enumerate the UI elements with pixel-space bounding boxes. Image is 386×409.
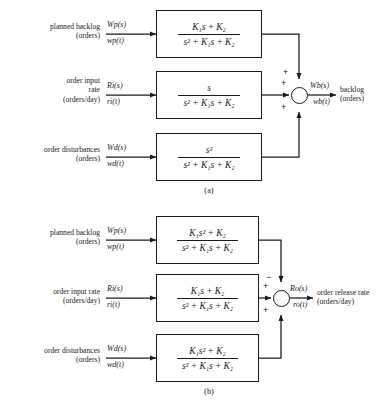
signal-time-wd-b: wd(t) [107, 360, 124, 369]
transfer-function-block-b1: K₁s² + K₂ s² + K₁s + K₂ [156, 216, 259, 264]
input-label-order-disturbances-a: order disturbances (orders) [2, 145, 100, 164]
transfer-function-block-a2: s s² + K₁s + K₂ [156, 71, 262, 119]
output-desc-line1: order release rate [317, 288, 386, 297]
numerator: s [178, 82, 239, 96]
output-desc-line1: backlog [340, 85, 386, 94]
input-label-order-disturbances-b: order disturbances (orders) [2, 346, 100, 365]
input-desc-line1: planned backlog [8, 22, 100, 31]
transfer-function-b1: K₁s² + K₂ s² + K₁s + K₂ [177, 227, 238, 254]
output-label-backlog-a: backlog (orders) [340, 85, 386, 104]
input-desc-line2: (orders) [2, 355, 100, 364]
output-label-order-release-rate-b: order release rate (orders/day) [317, 288, 386, 307]
numerator: s² [178, 144, 239, 158]
input-desc-line1: order disturbances [2, 145, 100, 154]
transfer-function-a1: K₁s + K₂ s² + K₁s + K₂ [178, 21, 239, 48]
denominator: s² + K₁s + K₂ [178, 158, 239, 171]
transfer-function-block-a3: s² s² + K₁s + K₂ [156, 133, 262, 181]
sign-left-b: + [263, 282, 268, 291]
transfer-function-block-b3: K₁s² + K₂ s² + K₁s + K₂ [156, 334, 259, 382]
summing-junction-a [291, 87, 308, 104]
input-label-order-input-rate-b: order input rate (orders/day) [4, 287, 100, 306]
input-desc-line2: rate [8, 85, 100, 94]
denominator: s² + K₁s + K₂ [177, 299, 238, 312]
input-desc-line2: (orders) [8, 31, 100, 40]
input-desc-line1: order input [8, 76, 100, 85]
signal-laplace-wp-a: Wp(s) [107, 20, 126, 29]
output-time-wb-a: wb(t) [313, 97, 330, 106]
signal-time-wp-b: wp(t) [107, 242, 124, 251]
input-desc-line2: (orders/day) [4, 296, 100, 305]
caption-b: (b) [189, 387, 229, 396]
figure-canvas: planned backlog (orders) Wp(s) wp(t) ord… [0, 0, 386, 409]
denominator: s² + K₁s + K₂ [178, 35, 239, 48]
summing-junction-b [273, 290, 290, 307]
transfer-function-a3: s² s² + K₁s + K₂ [178, 144, 239, 171]
sign-bottom-b: + [263, 306, 268, 315]
signal-laplace-ri-b: Ri(s) [107, 284, 123, 293]
numerator: K₁s + K₂ [177, 285, 238, 299]
signal-laplace-wd-a: Wd(s) [107, 143, 126, 152]
input-label-planned-backlog-a: planned backlog (orders) [8, 22, 100, 41]
input-desc-line1: order disturbances [2, 346, 100, 355]
transfer-function-block-b2: K₁s + K₂ s² + K₁s + K₂ [156, 274, 259, 322]
signal-time-ri-a: ri(t) [107, 97, 120, 106]
numerator: K₁s² + K₂ [177, 227, 238, 241]
sign-top-a: + [283, 68, 288, 77]
caption-a: (a) [189, 186, 229, 195]
transfer-function-a2: s s² + K₁s + K₂ [178, 82, 239, 109]
denominator: s² + K₁s + K₂ [177, 359, 238, 372]
transfer-function-b2: K₁s + K₂ s² + K₁s + K₂ [177, 285, 238, 312]
input-label-planned-backlog-b: planned backlog (orders) [8, 228, 100, 247]
input-desc-line3: (orders/day) [8, 95, 100, 104]
output-desc-line2: (orders/day) [317, 297, 386, 306]
input-desc-line2: (orders) [8, 237, 100, 246]
signal-time-wp-a: wp(t) [107, 36, 124, 45]
input-desc-line2: (orders) [2, 154, 100, 163]
numerator: K₁s + K₂ [178, 21, 239, 35]
signal-laplace-ri-a: Ri(s) [107, 81, 123, 90]
input-desc-line1: planned backlog [8, 228, 100, 237]
transfer-function-block-a1: K₁s + K₂ s² + K₁s + K₂ [156, 10, 262, 58]
output-laplace-ro-b: Ro(s) [290, 284, 307, 293]
signal-laplace-wp-b: Wp(s) [107, 226, 126, 235]
sign-bottom-a: + [281, 103, 286, 112]
numerator: K₁s² + K₂ [177, 345, 238, 359]
output-desc-line2: (orders) [340, 94, 386, 103]
signal-time-wd-a: wd(t) [107, 159, 124, 168]
input-desc-line1: order input rate [4, 287, 100, 296]
signal-time-ri-b: ri(t) [107, 300, 120, 309]
sign-left-a: + [281, 79, 286, 88]
output-laplace-wb-a: Wb(s) [310, 81, 329, 90]
denominator: s² + K₁s + K₂ [178, 96, 239, 109]
signal-laplace-wd-b: Wd(s) [107, 344, 126, 353]
output-time-ro-b: ro(t) [293, 300, 307, 309]
input-label-order-input-rate-a: order input rate (orders/day) [8, 76, 100, 104]
transfer-function-b3: K₁s² + K₂ s² + K₁s + K₂ [177, 345, 238, 372]
denominator: s² + K₁s + K₂ [177, 241, 238, 254]
